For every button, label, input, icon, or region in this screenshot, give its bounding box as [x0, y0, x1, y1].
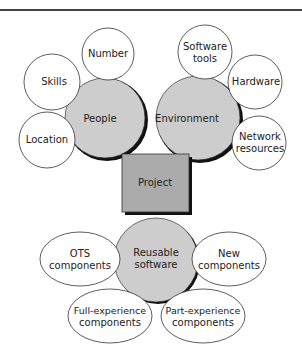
full-experience-ellipse [68, 289, 152, 343]
people-label: People [83, 113, 116, 124]
ots-label-2: components [49, 260, 111, 271]
software-tools-label-2: tools [193, 53, 217, 64]
hardware-label: Hardware [232, 76, 280, 87]
environment-group: Environment Software tools Hardware Netw… [155, 25, 286, 170]
software-tools-circle [178, 25, 232, 79]
ots-components-ellipse [40, 232, 120, 286]
new-label-2: components [198, 260, 260, 271]
skills-label: Skills [41, 76, 67, 87]
full-label-1: Full-experience [74, 305, 146, 316]
part-label-2: components [172, 317, 234, 328]
part-experience-ellipse [161, 289, 245, 343]
ots-label-1: OTS [70, 248, 90, 259]
project-resources-diagram: People Number Skills Location Environmen… [0, 0, 302, 359]
new-label-1: New [218, 248, 240, 259]
reusable-label-1: Reusable [133, 247, 179, 258]
project-node: Project [122, 154, 192, 215]
part-label-1: Part-experience [166, 305, 241, 316]
environment-label: Environment [155, 113, 219, 124]
location-label: Location [26, 134, 68, 145]
software-tools-label-1: Software [183, 41, 227, 52]
network-label-2: resources [236, 143, 284, 154]
full-label-2: components [79, 317, 141, 328]
new-components-ellipse [192, 232, 266, 286]
reusable-software-group: Reusable software OTS components New com… [40, 218, 266, 343]
reusable-label-2: software [135, 259, 178, 270]
people-group: People Number Skills Location [19, 28, 148, 168]
network-label-1: Network [239, 131, 281, 142]
project-label: Project [138, 177, 172, 188]
number-label: Number [88, 48, 129, 59]
